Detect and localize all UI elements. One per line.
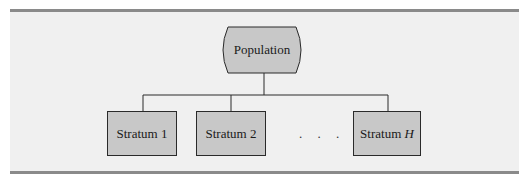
tree-connectors <box>0 0 525 182</box>
stratum-1-index: 1 <box>161 126 168 141</box>
stratum-h-index: H <box>405 126 414 141</box>
stratum-2-label: Stratum 2 <box>196 126 266 142</box>
stratum-1-label: Stratum 1 <box>107 126 177 142</box>
stratum-h-prefix: Stratum <box>360 126 401 141</box>
stratum-1-prefix: Stratum <box>117 126 158 141</box>
stratum-2-prefix: Stratum <box>206 126 247 141</box>
stratum-h-label: Stratum H <box>353 126 421 142</box>
population-label: Population <box>219 42 305 58</box>
ellipsis: . . . <box>299 126 345 142</box>
stratum-2-index: 2 <box>250 126 257 141</box>
